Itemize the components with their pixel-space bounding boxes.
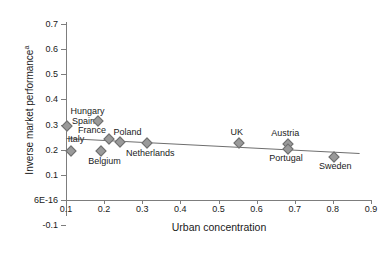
plot-area: Inverse market performancea Urban concen… (0, 0, 392, 257)
y-tick-mark (61, 74, 66, 75)
data-point-label: Poland (113, 127, 141, 137)
y-tick-label: 0.5 (24, 70, 58, 79)
y-tick-label: 0.1 (24, 171, 58, 180)
data-point-label: Hungary (71, 106, 105, 116)
x-axis-title: Urban concentration (66, 221, 372, 233)
data-point-label: Sweden (319, 161, 352, 171)
y-tick-label: 0.7 (24, 20, 58, 29)
data-point-label: Netherlands (126, 148, 175, 158)
data-point-label: Belgium (88, 156, 121, 166)
data-point-label: Austria (271, 128, 299, 138)
data-point-marker (61, 120, 72, 131)
y-tick-label: 6E-16 (14, 196, 58, 205)
x-tick-label: 0.7 (282, 205, 308, 214)
data-point-label: France (78, 125, 106, 135)
x-tick-label: 0.3 (129, 205, 155, 214)
x-tick-label: 0.6 (244, 205, 270, 214)
y-tick-label: 0.6 (24, 45, 58, 54)
data-point-marker (96, 145, 107, 156)
y-tick-mark (61, 99, 66, 100)
scatter-chart: Inverse market performancea Urban concen… (0, 0, 392, 257)
x-tick-label: 0.8 (320, 205, 346, 214)
y-tick-label: 0.4 (24, 95, 58, 104)
x-tick-label: 0.2 (91, 205, 117, 214)
x-tick-label: 0.5 (206, 205, 232, 214)
y-tick-mark (61, 49, 66, 50)
x-tick-label: 0.1 (53, 205, 79, 214)
data-point-marker (141, 137, 152, 148)
y-tick-label: -0.1 (24, 221, 58, 230)
x-tick-label: 0.9 (358, 205, 384, 214)
y-tick-mark (61, 24, 66, 25)
y-tick-label: 0.3 (24, 121, 58, 130)
y-tick-mark (61, 225, 66, 226)
y-tick-mark (61, 175, 66, 176)
data-point-marker (115, 136, 126, 147)
data-point-label: Portugal (269, 153, 303, 163)
y-tick-label: 0.2 (24, 146, 58, 155)
data-point-label: UK (231, 127, 244, 137)
x-tick-label: 0.4 (167, 205, 193, 214)
